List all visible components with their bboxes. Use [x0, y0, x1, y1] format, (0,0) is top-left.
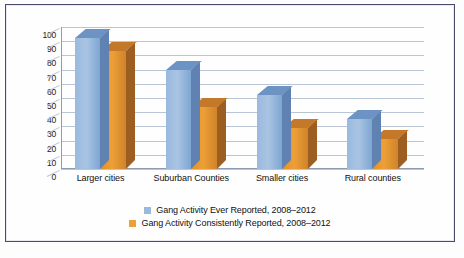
bar-ever-reported [347, 119, 372, 169]
bar-ever-reported [166, 70, 191, 169]
legend-label-ever-reported: Gang Activity Ever Reported, 2008–2012 [156, 205, 315, 216]
x-axis-label: Rural counties [331, 173, 414, 184]
bar-side-face [282, 86, 291, 169]
legend-item-consistently-reported: Gang Activity Consistently Reported, 200… [129, 218, 330, 229]
legend-swatch-blue [144, 207, 151, 214]
bar-front-face [257, 95, 282, 169]
x-axis-label: Suburban Counties [150, 173, 233, 184]
bar-group [257, 27, 308, 169]
gridline [61, 169, 424, 170]
chart-legend: Gang Activity Ever Reported, 2008–2012 G… [6, 205, 454, 229]
bar-front-face [75, 38, 100, 169]
legend-swatch-orange [129, 220, 136, 227]
bar-group [75, 27, 126, 169]
legend-item-ever-reported: Gang Activity Ever Reported, 2008–2012 [144, 205, 315, 216]
y-axis-line [61, 27, 62, 169]
y-axis-tick-labels: 1009080706050403020100 [24, 27, 56, 169]
bar-front-face [347, 119, 372, 169]
legend-label-consistently-reported: Gang Activity Consistently Reported, 200… [141, 218, 330, 229]
bar-side-face [372, 110, 381, 169]
chart-frame: 1009080706050403020100 Larger citiesSubu… [5, 4, 455, 242]
x-axis-category-labels: Larger citiesSuburban CountiesSmaller ci… [61, 173, 424, 197]
bar-side-face [191, 61, 200, 169]
chart-page: 1009080706050403020100 Larger citiesSubu… [0, 0, 464, 258]
x-axis-label: Smaller cities [241, 173, 324, 184]
x-axis-label: Larger cities [59, 173, 142, 184]
bar-side-face [100, 29, 109, 169]
bar-group [166, 27, 217, 169]
bar-side-face [217, 98, 226, 169]
bar-group [347, 27, 398, 169]
bar-ever-reported [75, 38, 100, 169]
bar-front-face [166, 70, 191, 169]
bar-ever-reported [257, 95, 282, 169]
bar-side-face [126, 42, 135, 169]
plot-area [61, 27, 424, 169]
figure-caption [8, 250, 456, 258]
